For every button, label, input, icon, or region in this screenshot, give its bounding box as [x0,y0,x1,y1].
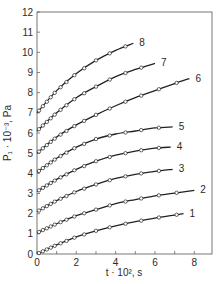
y-tick-label: 2 [27,208,33,219]
x-axis-title: t · 10², s [106,267,143,278]
data-point [49,161,52,164]
data-point [37,150,40,153]
data-point [45,248,48,251]
curve-label-6: 6 [195,73,201,84]
data-point [37,109,40,112]
data-point [140,219,143,222]
data-point [73,147,76,150]
data-point [49,96,52,99]
data-point [37,230,40,233]
data-point [94,85,97,88]
data-point [124,200,127,203]
data-point [45,100,48,103]
chart: 024680123456789101112 12345678 t · 10², … [0,0,218,284]
data-point [124,45,127,48]
y-axis-title: P₁ · 10⁻³, Pa [2,104,13,161]
data-point [108,107,111,110]
data-point [49,140,52,143]
data-point [41,186,44,189]
data-point [124,71,127,74]
data-point [108,52,111,55]
data-point [41,104,44,107]
data-point [94,160,97,163]
y-tick-label: 7 [27,107,33,118]
data-point [37,169,40,172]
data-point [65,194,68,197]
curve-label-4: 4 [177,141,183,152]
data-point [157,146,160,149]
data-point [82,119,85,122]
y-tick-label: 9 [27,67,33,78]
data-point [59,108,62,111]
data-point [82,233,85,236]
data-point [53,137,56,140]
data-point [45,120,48,123]
x-tick-label: 8 [192,257,198,268]
data-point [45,164,48,167]
data-point [59,176,62,179]
data-point [73,215,76,218]
data-point [82,92,85,95]
data-point [140,128,143,131]
data-point [53,223,56,226]
data-point [124,151,127,154]
data-point [65,151,68,154]
data-point [94,113,97,116]
data-point [45,227,48,230]
data-point [45,143,48,146]
curve-label-5: 5 [179,121,185,132]
data-point [59,220,62,223]
y-tick-label: 3 [27,188,33,199]
data-point [108,178,111,181]
data-point [37,189,40,192]
data-point [49,246,52,249]
data-point [65,173,68,176]
data-point [175,81,178,84]
data-point [82,142,85,145]
data-point [94,208,97,211]
data-point [59,242,62,245]
curve-1 [37,214,183,254]
data-point [175,191,178,194]
curve-label-3: 3 [179,163,185,174]
data-point [49,117,52,120]
data-point [65,218,68,221]
data-point [94,59,97,62]
data-point [108,226,111,229]
data-point [65,80,68,83]
data-point [82,212,85,215]
data-point [108,204,111,207]
curve-3 [37,169,173,211]
data-point [73,98,76,101]
data-point [65,104,68,107]
curve-6 [37,79,189,154]
data-point [108,78,111,81]
data-point [41,207,44,210]
y-tick-label: 0 [27,249,33,260]
y-tick-label: 12 [22,7,34,18]
y-tick-label: 8 [27,87,33,98]
data-point [49,202,52,205]
data-point [73,236,76,239]
data-point [140,197,143,200]
x-tick-label: 0 [34,257,40,268]
data-point [49,225,52,228]
data-point [37,251,40,254]
data-point [53,113,56,116]
y-tick-label: 1 [27,228,33,239]
data-point [157,88,160,91]
data-point [73,169,76,172]
data-point [82,67,85,70]
data-point [157,126,160,129]
curve-label-7: 7 [161,57,167,68]
data-point [41,166,44,169]
data-point [41,250,44,253]
data-point [124,175,127,178]
data-point [53,200,56,203]
x-tick-label: 6 [152,257,158,268]
y-tick-label: 10 [22,47,34,58]
data-point [45,204,48,207]
data-point [140,172,143,175]
data-point [82,187,85,190]
x-tick-label: 2 [74,257,80,268]
